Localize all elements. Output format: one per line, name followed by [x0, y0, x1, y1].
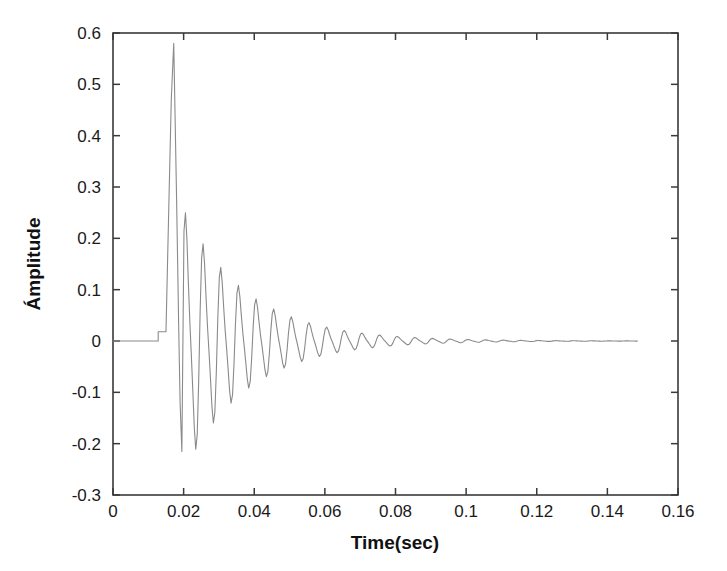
figure-container: 00.020.040.060.080.10.120.140.16 0.60.50…	[0, 0, 727, 571]
y-axis-title: Ámplitude	[23, 218, 44, 311]
y-tick-label: -0.3	[72, 486, 101, 505]
y-tick-label: 0.6	[77, 24, 101, 43]
x-tick-label: 0.04	[238, 502, 271, 521]
x-axis-title: Time(sec)	[351, 532, 439, 553]
y-tick-label: 0.3	[77, 178, 101, 197]
x-tick-label: 0.14	[591, 502, 624, 521]
chart-background	[0, 0, 727, 571]
y-tick-label: -0.1	[72, 383, 101, 402]
x-tick-label: 0.02	[167, 502, 200, 521]
y-tick-label: 0.5	[77, 75, 101, 94]
x-axis-tick-labels: 00.020.040.060.080.10.120.140.16	[108, 502, 694, 521]
y-tick-label: 0	[92, 332, 101, 351]
x-tick-label: 0	[108, 502, 117, 521]
x-tick-label: 0.1	[454, 502, 478, 521]
x-tick-label: 0.12	[520, 502, 553, 521]
x-tick-label: 0.08	[379, 502, 412, 521]
x-tick-label: 0.06	[308, 502, 341, 521]
y-tick-label: 0.4	[77, 127, 101, 146]
y-tick-label: 0.2	[77, 229, 101, 248]
x-tick-label: 0.16	[661, 502, 694, 521]
impulse-response-chart: 00.020.040.060.080.10.120.140.16 0.60.50…	[0, 0, 727, 571]
y-tick-label: 0.1	[77, 281, 101, 300]
y-tick-label: -0.2	[72, 435, 101, 454]
